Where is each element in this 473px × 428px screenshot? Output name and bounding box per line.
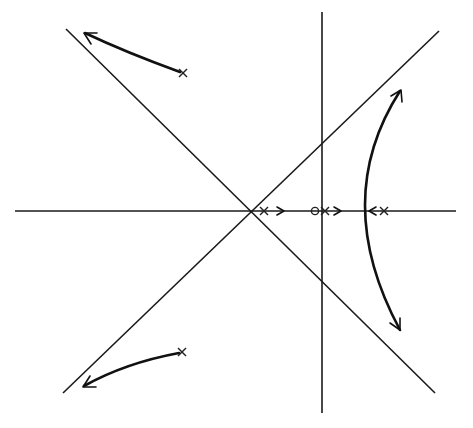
- locus-branch-lower-left: [84, 353, 179, 386]
- locus-branch-upper-left: [85, 33, 180, 72]
- root-locus-diagram: [0, 0, 473, 428]
